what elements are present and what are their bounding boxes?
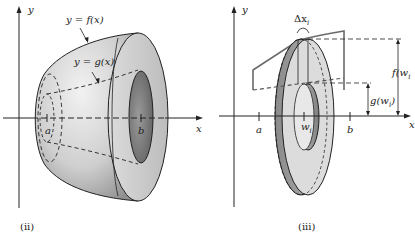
x-axis-label: x bbox=[409, 120, 415, 130]
w-subscript: i bbox=[310, 127, 312, 135]
y-axis-label: y bbox=[242, 5, 248, 15]
delta-x-text: Δx bbox=[294, 13, 307, 24]
f-w-subscript: i bbox=[408, 73, 410, 81]
x-axis-label: x bbox=[196, 124, 202, 134]
w-label: wi bbox=[301, 122, 312, 135]
y-axis-arrow-icon bbox=[232, 6, 237, 13]
delta-x-subscript: i bbox=[307, 19, 309, 27]
g-w-close: ) bbox=[391, 95, 395, 106]
figure-caption: (ii) bbox=[20, 222, 34, 232]
x-axis-arrow-icon bbox=[404, 114, 411, 119]
y-axis-label: y bbox=[28, 5, 34, 15]
f-leader-arrow-icon bbox=[85, 37, 89, 43]
f-w-label: f(wi bbox=[392, 68, 410, 81]
figure-ii-solid-of-revolution: y x y = f(x) y = g(x) a b (ii) bbox=[0, 0, 206, 237]
figure-iii-drawing bbox=[206, 0, 412, 237]
a-label: a bbox=[256, 125, 262, 135]
delta-x-brace bbox=[297, 28, 309, 33]
a-label: a bbox=[45, 126, 51, 136]
f-w-text: f(w bbox=[392, 67, 408, 78]
y-axis-arrow-icon bbox=[17, 6, 22, 13]
f-dim-arrow-down-icon bbox=[396, 111, 400, 116]
b-label: b bbox=[347, 125, 353, 135]
w-text: w bbox=[301, 121, 310, 132]
g-w-text: g(w bbox=[370, 95, 389, 106]
f-curve-label: y = f(x) bbox=[66, 15, 104, 25]
g-curve-label: y = g(x) bbox=[74, 57, 114, 67]
g-dim-arrow-down-icon bbox=[366, 111, 370, 116]
b-label: b bbox=[138, 126, 144, 136]
g-dim-arrow-up-icon bbox=[366, 83, 370, 88]
delta-x-label: Δxi bbox=[294, 14, 309, 27]
g-w-label: g(wi) bbox=[370, 96, 395, 109]
x-axis-arrow-icon bbox=[196, 116, 203, 121]
figure-ii-drawing bbox=[0, 0, 206, 237]
figure-caption: (iii) bbox=[298, 222, 315, 232]
f-dim-arrow-up-icon bbox=[396, 39, 400, 44]
figure-iii-washer-slice: y Δxi f(wi g(wi) a b wi x (iii) bbox=[206, 0, 412, 237]
